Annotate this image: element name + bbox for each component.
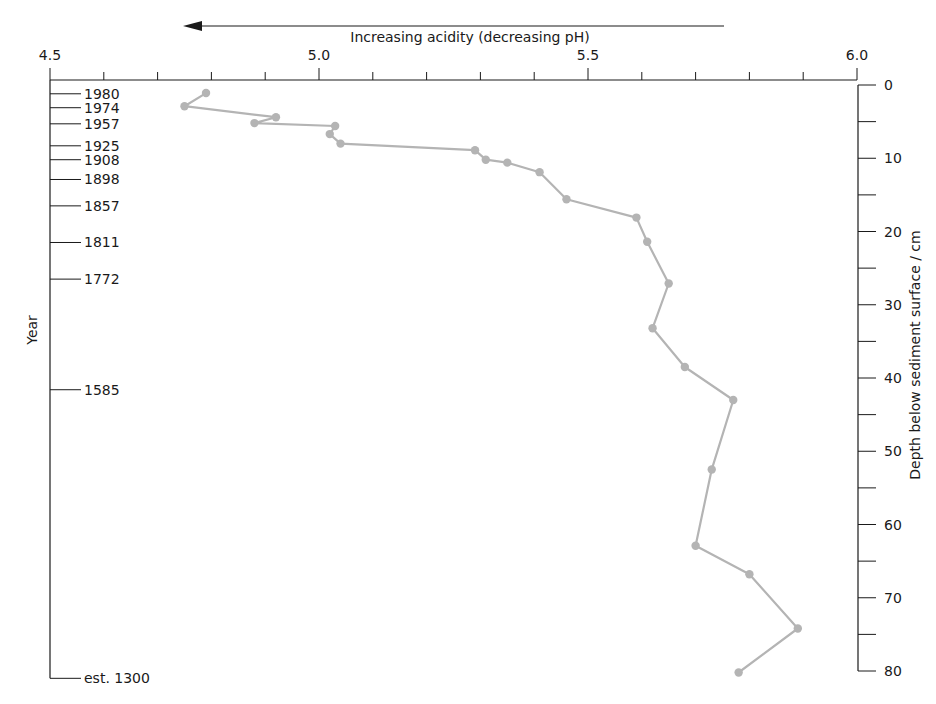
depth-axis-label: Depth below sediment surface / cm — [907, 230, 923, 479]
x-tick-label: 5.0 — [308, 47, 330, 63]
year-tick-label: 1585 — [84, 382, 120, 398]
data-point — [272, 113, 280, 121]
data-point — [708, 465, 716, 473]
data-point — [729, 396, 737, 404]
data-point — [471, 146, 479, 154]
x-tick-label: 6.0 — [846, 47, 868, 63]
depth-tick-label: 70 — [884, 590, 902, 606]
data-point — [180, 102, 188, 110]
data-point — [326, 130, 334, 138]
data-point — [331, 122, 339, 130]
depth-tick-label: 0 — [884, 77, 893, 93]
data-point — [336, 139, 344, 147]
x-axis-label: Increasing acidity (decreasing pH) — [350, 29, 589, 45]
year-axis-label: Year — [24, 315, 40, 346]
data-point — [482, 156, 490, 164]
x-tick-label: 5.5 — [577, 47, 599, 63]
data-point — [503, 158, 511, 166]
ph-depth-chart: Increasing acidity (decreasing pH) 4.55.… — [0, 0, 936, 704]
depth-tick-label: 80 — [884, 663, 902, 679]
ph-series — [180, 89, 802, 677]
year-tick-label: 1974 — [84, 100, 120, 116]
depth-tick-label: 10 — [884, 150, 902, 166]
depth-tick-label: 40 — [884, 370, 902, 386]
year-tick-label: 1898 — [84, 171, 120, 187]
year-tick-label: 1857 — [84, 198, 120, 214]
year-tick-label: est. 1300 — [84, 670, 150, 686]
data-point — [643, 238, 651, 246]
depth-tick-label: 30 — [884, 297, 902, 313]
year-tick-label: 1957 — [84, 116, 120, 132]
data-point — [648, 324, 656, 332]
depth-tick-label: 20 — [884, 224, 902, 240]
arrow-left-icon — [183, 21, 202, 31]
data-point — [202, 89, 210, 97]
data-point — [734, 668, 742, 676]
depth-tick-label: 60 — [884, 517, 902, 533]
data-point — [250, 119, 258, 127]
data-point — [745, 570, 753, 578]
data-point — [562, 195, 570, 203]
depth-axis: 01020304050607080 — [858, 77, 902, 679]
data-point — [632, 213, 640, 221]
data-point — [794, 624, 802, 632]
data-point — [665, 279, 673, 287]
depth-tick-label: 50 — [884, 443, 902, 459]
data-point — [535, 168, 543, 176]
year-axis: 1980197419571925190818981857181117721585… — [50, 80, 150, 686]
year-tick-label: 1811 — [84, 234, 120, 250]
x-tick-label: 4.5 — [39, 47, 61, 63]
ph-axis: 4.55.05.56.0 — [39, 47, 868, 80]
data-point — [681, 363, 689, 371]
data-point — [691, 542, 699, 550]
year-tick-label: 1772 — [84, 271, 120, 287]
year-tick-label: 1908 — [84, 152, 120, 168]
ph-line — [185, 93, 798, 672]
